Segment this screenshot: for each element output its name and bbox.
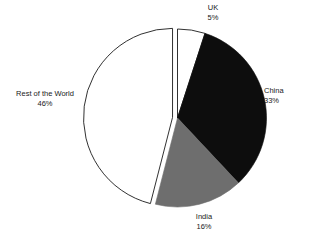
pie-chart-figure: UK 5% China 33% India 16% Rest of the Wo… [0, 0, 309, 238]
slice-label-rest-of-the-world-name: Rest of the World [3, 89, 87, 99]
slice-label-uk: UK 5% [196, 3, 230, 22]
slice-label-india-value: 16% [186, 222, 222, 232]
slice-label-rest-of-the-world-value: 46% [3, 99, 87, 109]
slice-label-uk-name: UK [196, 3, 230, 13]
slice-label-rest-of-the-world: Rest of the World 46% [3, 89, 87, 108]
slice-label-china-value: 33% [264, 96, 304, 106]
slice-label-india-name: India [186, 212, 222, 222]
slice-label-india: India 16% [186, 212, 222, 231]
pie-slice-rest-of-the-world [84, 28, 173, 203]
slice-label-uk-value: 5% [196, 13, 230, 23]
slice-label-china: China 33% [264, 86, 304, 105]
pie-slices-group [84, 28, 267, 207]
pie-chart-graphic [0, 0, 309, 238]
slice-label-china-name: China [264, 86, 304, 96]
